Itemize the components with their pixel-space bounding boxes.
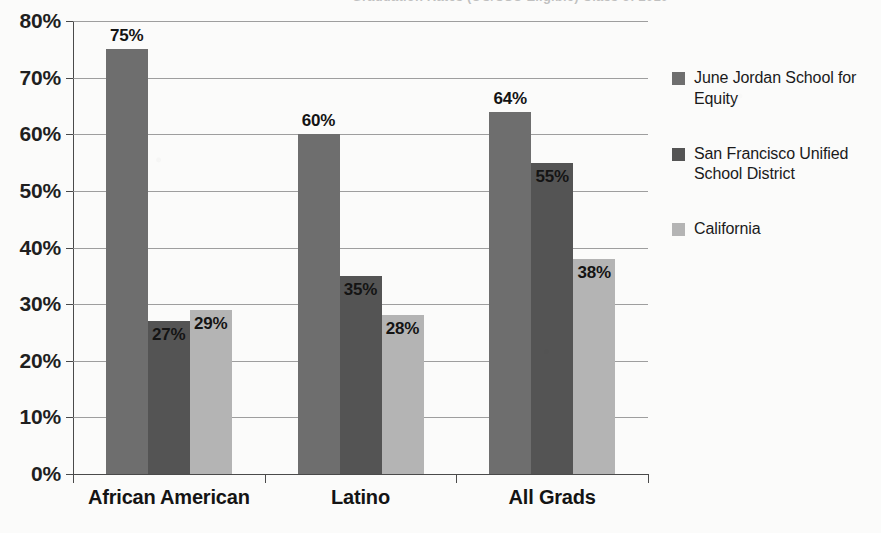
x-axis-tick [73, 474, 74, 483]
bar-value-label: 75% [110, 26, 143, 46]
bar-value-label: 38% [577, 263, 610, 283]
chart-legend: June Jordan School for EquitySan Francis… [672, 68, 877, 274]
x-axis-tick [648, 474, 649, 483]
legend-swatch-icon [672, 72, 685, 85]
legend-item: San Francisco Unified School District [672, 144, 877, 186]
x-axis-category-label: All Grads [509, 486, 596, 509]
y-axis-tick [66, 304, 73, 305]
bar: 75% [106, 49, 148, 474]
bar: 38% [573, 259, 615, 474]
x-axis-category-label: Latino [331, 486, 390, 509]
legend-item: California [672, 219, 877, 240]
y-axis-label: 80% [0, 9, 61, 33]
bar: 64% [489, 112, 531, 474]
x-axis-tick [456, 474, 457, 483]
y-axis-label: 30% [0, 292, 61, 316]
bar: 35% [340, 276, 382, 474]
y-axis-label: 50% [0, 179, 61, 203]
y-axis-tick [66, 248, 73, 249]
bar: 55% [531, 163, 573, 474]
x-axis-category-label: African American [88, 486, 250, 509]
plot-area: 75%27%29%60%35%28%64%55%38% [73, 21, 648, 474]
y-axis-tick [66, 474, 73, 475]
bar-value-label: 64% [493, 89, 526, 109]
bar-value-label: 29% [194, 314, 227, 334]
bar-value-label: 60% [302, 111, 335, 131]
y-axis-tick [66, 21, 73, 22]
y-axis-label: 70% [0, 66, 61, 90]
y-axis-label: 40% [0, 236, 61, 260]
y-axis-label: 20% [0, 349, 61, 373]
chart-title: Graduation Rates (UC/CSU Eligible) Class… [300, 0, 720, 4]
bar-value-label: 35% [344, 280, 377, 300]
y-axis-label: 0% [0, 462, 61, 486]
y-axis-label: 10% [0, 405, 61, 429]
bar-value-label: 55% [535, 167, 568, 187]
chart-page: Graduation Rates (UC/CSU Eligible) Class… [0, 0, 881, 533]
bar-value-label: 27% [152, 325, 185, 345]
bar: 60% [298, 134, 340, 474]
legend-swatch-icon [672, 148, 685, 161]
y-axis-label: 60% [0, 122, 61, 146]
legend-swatch-icon [672, 223, 685, 236]
bar: 29% [190, 310, 232, 474]
y-axis-tick [66, 134, 73, 135]
y-axis-tick [66, 191, 73, 192]
x-axis-line [73, 474, 649, 475]
bar-value-label: 28% [386, 319, 419, 339]
y-axis-tick [66, 361, 73, 362]
legend-label: California [694, 219, 761, 240]
legend-item: June Jordan School for Equity [672, 68, 877, 110]
bar: 27% [148, 321, 190, 474]
legend-label: San Francisco Unified School District [694, 144, 877, 186]
y-axis-tick [66, 417, 73, 418]
y-axis-tick [66, 78, 73, 79]
legend-label: June Jordan School for Equity [694, 68, 877, 110]
bar: 28% [382, 315, 424, 474]
x-axis-tick [265, 474, 266, 483]
